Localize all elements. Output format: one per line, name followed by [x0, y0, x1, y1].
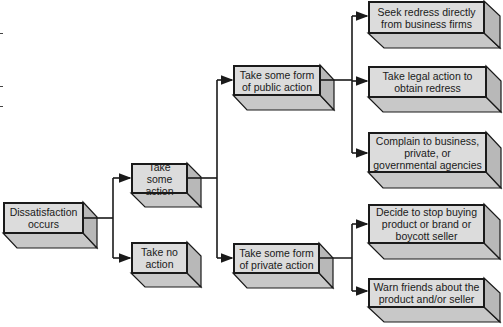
- consumer-dissatisfaction-flowchart: Dissatisfaction occurs Take some action …: [0, 0, 503, 327]
- node-label: Take some form of private action: [233, 243, 320, 274]
- scan-artifact: [0, 86, 3, 87]
- node-label: Take some form of public action: [233, 65, 321, 96]
- scan-artifact: [0, 106, 3, 107]
- node-label: Dissatisfaction occurs: [3, 202, 84, 234]
- node-label: Complain to business, private, or govern…: [368, 132, 487, 173]
- node-label: Take no action: [131, 242, 188, 274]
- node-label: Decide to stop buying product or brand o…: [368, 204, 485, 244]
- scan-artifact: [0, 33, 3, 34]
- node-label: Take legal action to obtain redress: [368, 66, 487, 98]
- node-label: Take some action: [131, 163, 188, 194]
- node-label: Warn friends about the product and/or se…: [368, 278, 485, 308]
- node-label: Seek redress directly from business firm…: [368, 1, 485, 34]
